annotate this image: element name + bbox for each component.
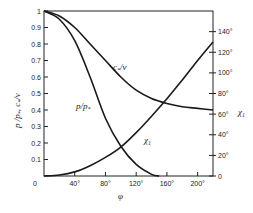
y2-tick-label: 100° bbox=[218, 69, 233, 76]
x-tick-label: 120° bbox=[129, 180, 144, 187]
plot-border bbox=[44, 11, 213, 176]
plot-frame bbox=[44, 11, 213, 176]
x-axis-label: φ bbox=[118, 191, 123, 201]
series-line bbox=[44, 11, 213, 110]
curves bbox=[44, 11, 213, 176]
x-tick-label: 200° bbox=[190, 180, 205, 187]
y2-tick-label: 0 bbox=[218, 173, 222, 180]
y2-tick-label: 140° bbox=[218, 28, 233, 35]
origin-label: 0 bbox=[33, 180, 37, 187]
x-tick-label: 80° bbox=[100, 180, 111, 187]
y2-tick-label: 60° bbox=[218, 111, 229, 118]
curve-label-cv: c*/v bbox=[113, 62, 127, 73]
y-tick-label: 0.3 bbox=[31, 123, 41, 130]
x-tick-label: 40° bbox=[69, 180, 80, 187]
x-tick-label: 160° bbox=[160, 180, 175, 187]
y-tick-label: 0.4 bbox=[31, 107, 41, 114]
chart-figure: 0.10.20.30.40.50.60.70.80.9140°80°120°16… bbox=[0, 0, 253, 213]
y2-axis-label: χ1 bbox=[237, 107, 245, 118]
y2-tick-label: 40° bbox=[218, 131, 229, 138]
y2-tick-label: 120° bbox=[218, 49, 233, 56]
y2-tick-label: 20° bbox=[218, 152, 229, 159]
y-tick-label: 0.1 bbox=[31, 156, 41, 163]
svg-text:p /p*, c*/v: p /p*, c*/v bbox=[12, 93, 23, 129]
y-tick-label: 0.8 bbox=[31, 41, 41, 48]
y-tick-label: 0.5 bbox=[31, 90, 41, 97]
curve-label-chi: χ1 bbox=[143, 135, 151, 146]
y2-tick-label: 80° bbox=[218, 90, 229, 97]
y-axis-label: p /p*, c*/v bbox=[12, 93, 23, 129]
curve-label-pp: p/p* bbox=[75, 101, 91, 112]
y-tick-label: 0.7 bbox=[31, 57, 41, 64]
y-tick-label: 0.6 bbox=[31, 74, 41, 81]
y-tick-label: 0.9 bbox=[31, 24, 41, 31]
y-tick-label: 1 bbox=[37, 8, 41, 15]
y-tick-label: 0.2 bbox=[31, 140, 41, 147]
